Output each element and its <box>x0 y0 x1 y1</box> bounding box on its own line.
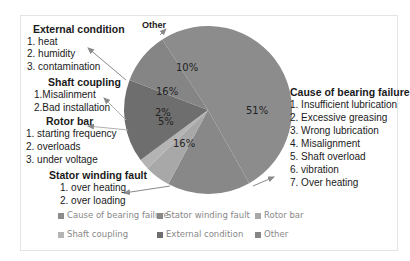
shaft-item: 2.Bad installation <box>34 102 110 114</box>
bearing-item: 5. Shaft overload <box>290 151 366 163</box>
stator-title: Stator winding fault <box>49 169 147 181</box>
legend-item: Cause of bearing failure <box>58 210 169 220</box>
bearing-item: 7. Over heating <box>290 177 358 189</box>
legend-swatch <box>58 213 64 219</box>
external-item: 1. heat <box>27 36 58 48</box>
legend-item: Other <box>255 229 288 239</box>
stator-item: 1. over heating <box>60 182 126 194</box>
pct-stator: 16% <box>173 138 195 149</box>
rotor-item: 1. starting frequency <box>26 128 117 140</box>
legend-swatch <box>58 232 64 238</box>
legend-item: Stator winding fault <box>157 210 250 220</box>
legend-swatch <box>255 213 261 219</box>
external-title: External condition <box>33 23 125 35</box>
other-title: Other <box>142 19 166 31</box>
pct-external: 16% <box>156 86 178 97</box>
legend-swatch <box>255 232 261 238</box>
pct-bearing: 51% <box>246 105 268 116</box>
bearing-item: 1. Insufficient lubrication <box>290 99 397 111</box>
bearing-item: 3. Wrong lubrication <box>290 125 379 137</box>
external-item: 2. humidity <box>27 48 75 60</box>
legend-item: Rotor bar <box>255 210 304 220</box>
pct-rotor: 5% <box>158 116 174 127</box>
shaft-item: 1.Misalinment <box>34 89 96 101</box>
bearing-item: 6. vibration <box>290 164 339 176</box>
stator-item: 2. over loading <box>60 195 126 207</box>
external-item: 3. contamination <box>27 61 100 73</box>
bearing-item: 4. Misalignment <box>290 138 360 150</box>
rotor-item: 3. under voltage <box>26 154 98 166</box>
legend-swatch <box>157 232 163 238</box>
rotor-title: Rotor bar <box>46 115 93 127</box>
legend-item: Shaft coupling <box>58 229 128 239</box>
rotor-item: 2. overloads <box>26 141 80 153</box>
shaft-title: Shaft coupling <box>48 76 121 88</box>
legend-item: External condition <box>157 229 243 239</box>
pct-other: 10% <box>176 62 198 73</box>
arrow-stator <box>124 186 170 193</box>
bearing-item: 2. Excessive greasing <box>290 112 387 124</box>
legend-swatch <box>157 213 163 219</box>
bearing-title: Cause of bearing failure <box>290 86 410 98</box>
